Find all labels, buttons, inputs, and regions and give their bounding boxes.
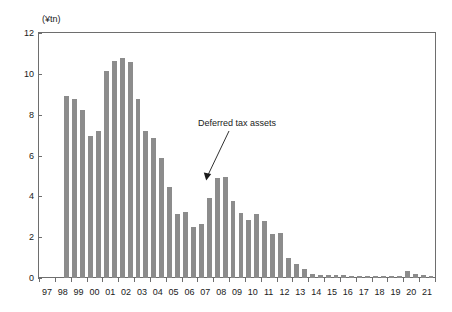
y-axis-tick-8: 8 <box>8 110 34 120</box>
x-axis-tick-08: 08 <box>216 287 226 297</box>
bar-05H2 <box>175 214 180 278</box>
bar-99H2 <box>80 110 85 278</box>
bar-14H2 <box>318 275 323 278</box>
y-axis-unit-label: (¥tn) <box>42 14 61 24</box>
bar-18H1 <box>373 276 378 278</box>
x-axis-tick-09: 09 <box>232 287 242 297</box>
bar-03H2 <box>143 131 148 278</box>
bar-04H1 <box>151 138 156 278</box>
bar-16H1 <box>341 275 346 278</box>
y-tick-mark-6 <box>38 156 42 157</box>
bar-08H2 <box>223 177 228 278</box>
bar-20H2 <box>413 274 418 278</box>
y-axis-tick-2: 2 <box>8 232 34 242</box>
bar-00H2 <box>96 131 101 278</box>
bar-16H2 <box>349 276 354 278</box>
bar-15H2 <box>334 275 339 278</box>
y-axis-tick-10: 10 <box>8 69 34 79</box>
x-tick-mark-08 <box>213 278 214 282</box>
bar-11H2 <box>270 234 275 278</box>
x-tick-mark-05 <box>166 278 167 282</box>
x-tick-mark-04 <box>150 278 151 282</box>
bar-19H2 <box>397 276 402 278</box>
x-axis-tick-17: 17 <box>359 287 369 297</box>
bar-09H2 <box>239 213 244 278</box>
y-axis-tick-12: 12 <box>8 28 34 38</box>
x-tick-mark-02 <box>118 278 119 282</box>
x-axis-tick-00: 00 <box>89 287 99 297</box>
bar-19H1 <box>389 276 394 278</box>
x-tick-mark-21 <box>419 278 420 282</box>
x-axis-tick-98: 98 <box>58 287 68 297</box>
y-axis-tick-4: 4 <box>8 191 34 201</box>
bar-08H1 <box>215 178 220 278</box>
x-tick-mark-99 <box>71 278 72 282</box>
y-tick-mark-2 <box>38 237 42 238</box>
x-axis-tick-12: 12 <box>280 287 290 297</box>
bar-10H1 <box>246 220 251 278</box>
bar-09H1 <box>231 201 236 278</box>
x-tick-mark-19 <box>387 278 388 282</box>
bar-06H2 <box>191 227 196 278</box>
bar-05H1 <box>167 187 172 278</box>
x-tick-mark-11 <box>261 278 262 282</box>
x-axis-tick-03: 03 <box>137 287 147 297</box>
bar-17H1 <box>357 276 362 278</box>
bar-02H1 <box>120 58 125 278</box>
x-axis-tick-06: 06 <box>184 287 194 297</box>
bar-20H1 <box>405 271 410 278</box>
bar-12H2 <box>286 258 291 278</box>
bar-07H1 <box>199 224 204 278</box>
x-axis-tick-10: 10 <box>248 287 258 297</box>
deferred-tax-assets-chart: (¥tn) 024681012 Deferred tax assets 9798… <box>0 0 452 312</box>
bar-18H2 <box>381 276 386 278</box>
bar-00H1 <box>88 136 93 279</box>
y-axis-tick-0: 0 <box>8 273 34 283</box>
x-tick-mark-end <box>435 278 436 282</box>
x-tick-mark-07 <box>197 278 198 282</box>
x-tick-mark-97 <box>39 278 40 282</box>
bar-15H1 <box>326 275 331 278</box>
x-tick-mark-13 <box>292 278 293 282</box>
y-tick-mark-10 <box>38 74 42 75</box>
bar-01H1 <box>104 71 109 278</box>
x-tick-mark-06 <box>182 278 183 282</box>
bar-02H2 <box>128 62 133 278</box>
bar-06H1 <box>183 212 188 278</box>
x-axis-tick-20: 20 <box>406 287 416 297</box>
bar-13H2 <box>302 269 307 278</box>
x-tick-mark-01 <box>102 278 103 282</box>
x-axis-tick-19: 19 <box>390 287 400 297</box>
x-axis-tick-15: 15 <box>327 287 337 297</box>
x-tick-mark-17 <box>356 278 357 282</box>
bar-11H1 <box>262 221 267 278</box>
x-axis-tick-16: 16 <box>343 287 353 297</box>
y-axis-tick-6: 6 <box>8 151 34 161</box>
bar-17H2 <box>365 276 370 278</box>
x-tick-mark-03 <box>134 278 135 282</box>
bar-13H1 <box>294 264 299 278</box>
x-tick-mark-18 <box>372 278 373 282</box>
x-tick-mark-98 <box>55 278 56 282</box>
bars-layer <box>39 33 435 278</box>
x-axis-tick-02: 02 <box>121 287 131 297</box>
bar-98H2 <box>64 96 69 278</box>
x-tick-mark-20 <box>403 278 404 282</box>
y-tick-mark-8 <box>38 115 42 116</box>
x-tick-mark-14 <box>308 278 309 282</box>
y-tick-mark-4 <box>38 196 42 197</box>
x-tick-mark-09 <box>229 278 230 282</box>
bar-21H2 <box>429 276 434 278</box>
bar-04H2 <box>159 158 164 278</box>
annotation-label: Deferred tax assets <box>198 118 276 128</box>
bar-10H2 <box>254 214 259 278</box>
x-axis-tick-04: 04 <box>153 287 163 297</box>
bar-03H1 <box>136 99 141 278</box>
x-axis-tick-05: 05 <box>169 287 179 297</box>
x-tick-mark-10 <box>245 278 246 282</box>
x-axis-tick-21: 21 <box>422 287 432 297</box>
x-tick-mark-15 <box>324 278 325 282</box>
x-axis-tick-07: 07 <box>200 287 210 297</box>
bar-12H1 <box>278 233 283 278</box>
bar-99H1 <box>72 99 77 278</box>
